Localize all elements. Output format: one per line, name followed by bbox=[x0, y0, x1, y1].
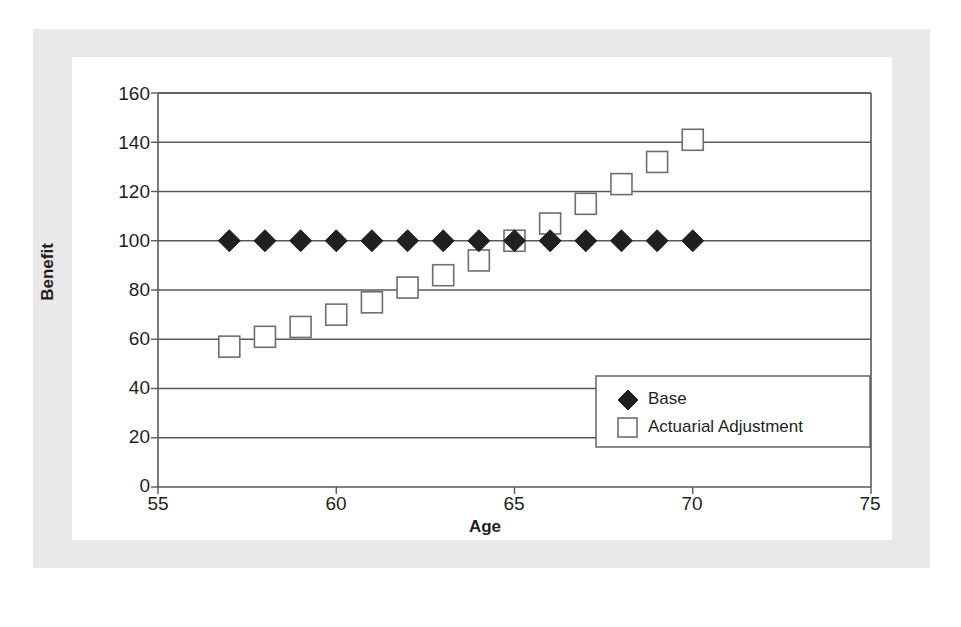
y-tick-label-140: 140 bbox=[104, 132, 150, 154]
y-tick-label-60: 60 bbox=[104, 328, 150, 350]
marker-actuarial-adjustment-age-59 bbox=[290, 316, 311, 337]
marker-base-age-64 bbox=[468, 230, 490, 252]
marker-actuarial-adjustment-age-58 bbox=[254, 326, 275, 347]
marker-base-age-57 bbox=[218, 230, 240, 252]
marker-actuarial-adjustment-age-57 bbox=[219, 336, 240, 357]
marker-base-age-68 bbox=[610, 230, 632, 252]
x-axis-title: Age bbox=[469, 517, 501, 537]
marker-actuarial-adjustment-age-69 bbox=[647, 151, 668, 172]
x-tick-label-70: 70 bbox=[662, 493, 722, 515]
y-tick-label-100: 100 bbox=[104, 230, 150, 252]
y-tick-label-120: 120 bbox=[104, 181, 150, 203]
marker-base-age-70 bbox=[682, 230, 704, 252]
marker-base-age-62 bbox=[397, 230, 419, 252]
marker-actuarial-adjustment-age-68 bbox=[611, 174, 632, 195]
y-tick-label-80: 80 bbox=[104, 279, 150, 301]
x-tick-label-60: 60 bbox=[306, 493, 366, 515]
marker-actuarial-adjustment-age-67 bbox=[575, 193, 596, 214]
marker-base-age-61 bbox=[361, 230, 383, 252]
marker-base-age-60 bbox=[325, 230, 347, 252]
legend-marker-actuarial-adjustment-icon bbox=[618, 418, 637, 437]
x-tick-label-65: 65 bbox=[484, 493, 544, 515]
marker-actuarial-adjustment-age-64 bbox=[468, 250, 489, 271]
x-tick-label-75: 75 bbox=[840, 493, 900, 515]
marker-actuarial-adjustment-age-60 bbox=[326, 304, 347, 325]
marker-base-age-58 bbox=[254, 230, 276, 252]
marker-base-age-63 bbox=[432, 230, 454, 252]
marker-actuarial-adjustment-age-62 bbox=[397, 277, 418, 298]
legend-label-base: Base bbox=[648, 389, 687, 409]
marker-actuarial-adjustment-age-70 bbox=[682, 129, 703, 150]
x-tick-label-55: 55 bbox=[128, 493, 188, 515]
legend-label-actuarial-adjustment: Actuarial Adjustment bbox=[648, 417, 803, 437]
marker-base-age-67 bbox=[575, 230, 597, 252]
marker-base-age-69 bbox=[646, 230, 668, 252]
y-axis-title: Benefit bbox=[38, 212, 58, 332]
y-axis-tick-marks bbox=[151, 93, 158, 487]
y-tick-label-160: 160 bbox=[104, 83, 150, 105]
y-tick-label-20: 20 bbox=[104, 426, 150, 448]
marker-base-age-59 bbox=[290, 230, 312, 252]
y-tick-label-40: 40 bbox=[104, 377, 150, 399]
marker-actuarial-adjustment-age-63 bbox=[433, 265, 454, 286]
marker-actuarial-adjustment-age-61 bbox=[361, 292, 382, 313]
